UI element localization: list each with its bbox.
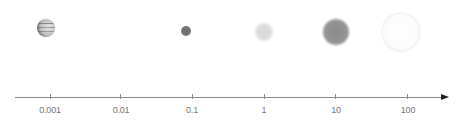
small-dark-dot-icon [181,26,191,36]
tick-mark [335,94,336,99]
tick-label: 100 [401,105,415,115]
tick-mark [407,94,408,99]
tick-mark [264,94,265,99]
large-ring-icon [381,12,421,52]
tick-mark [192,94,193,99]
arrow-right-icon [441,94,449,100]
light-disc-icon [255,23,273,41]
tick-label: 10 [331,105,341,115]
tick-label: 0.01 [113,105,130,115]
tick-mark [50,94,51,99]
tick-mark [120,94,121,99]
x-axis-line [15,97,443,98]
tick-label: 1 [262,105,267,115]
banded-planet-icon [37,19,55,37]
mid-gray-disc-icon [323,19,349,45]
tick-label: 0.1 [186,105,198,115]
tick-label: 0.001 [39,105,61,115]
